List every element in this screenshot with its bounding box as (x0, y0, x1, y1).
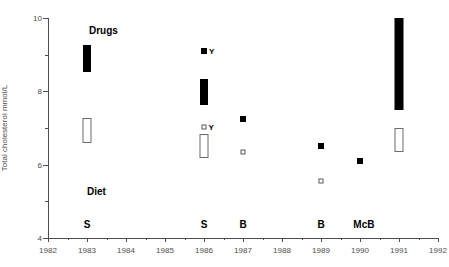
x-tick-label: 1988 (273, 246, 291, 255)
study-label: B (317, 219, 324, 230)
x-tick-major (321, 238, 322, 242)
x-tick-major (282, 238, 283, 242)
x-tick-label: 1991 (390, 246, 408, 255)
point-marker (201, 48, 207, 54)
x-tick-minor (68, 238, 69, 240)
x-tick-minor (263, 238, 264, 240)
range-bar (395, 18, 404, 110)
x-tick-minor (107, 238, 108, 240)
point-marker (318, 143, 324, 149)
x-tick-major (360, 238, 361, 242)
y-tick-label: 6 (38, 160, 42, 169)
x-tick-minor (185, 238, 186, 240)
marker-label: Y (209, 123, 214, 132)
y-tick-minor (45, 55, 48, 56)
y-tick-label: 4 (38, 234, 42, 243)
cholesterol-trend-chart: Total cholesterol mmol/L 46810 198219831… (0, 0, 449, 267)
x-tick-minor (380, 238, 381, 240)
x-tick-major (438, 238, 439, 242)
marker-label: Y (209, 47, 214, 56)
point-marker (202, 125, 207, 130)
x-tick-label: 1989 (312, 246, 330, 255)
x-tick-minor (302, 238, 303, 240)
x-tick-label: 1984 (117, 246, 135, 255)
x-tick-minor (224, 238, 225, 240)
point-marker (319, 179, 324, 184)
group-annotation: Drugs (89, 25, 118, 36)
x-tick-label: 1983 (78, 246, 96, 255)
x-tick-label: 1986 (195, 246, 213, 255)
y-axis-title: Total cholesterol mmol/L (0, 85, 9, 171)
x-tick-major (165, 238, 166, 242)
range-bar (200, 134, 209, 159)
x-tick-label: 1992 (429, 246, 447, 255)
x-tick-minor (146, 238, 147, 240)
x-tick-major (243, 238, 244, 242)
group-annotation: Diet (87, 186, 106, 197)
range-bar (83, 118, 92, 143)
x-tick-label: 1987 (234, 246, 252, 255)
x-tick-label: 1982 (39, 246, 57, 255)
point-marker (357, 158, 363, 164)
plot-area: 46810 1982198319841985198619871988198919… (48, 18, 438, 238)
y-tick-label: 8 (38, 87, 42, 96)
x-tick-label: 1985 (156, 246, 174, 255)
study-label: McB (353, 219, 374, 230)
point-marker (241, 149, 246, 154)
y-tick-minor (45, 128, 48, 129)
range-bar (395, 128, 404, 152)
y-tick-major (43, 165, 48, 166)
x-tick-major (87, 238, 88, 242)
x-tick-minor (341, 238, 342, 240)
y-tick-major (43, 91, 48, 92)
y-tick-label: 10 (33, 14, 42, 23)
y-tick-minor (45, 201, 48, 202)
x-tick-major (48, 238, 49, 242)
y-axis-line (48, 18, 49, 238)
range-bar (83, 45, 91, 72)
point-marker (240, 116, 246, 122)
study-label: S (201, 219, 208, 230)
study-label: B (239, 219, 246, 230)
x-tick-label: 1990 (351, 246, 369, 255)
y-tick-major (43, 18, 48, 19)
study-label: S (84, 219, 91, 230)
x-tick-major (399, 238, 400, 242)
x-tick-minor (419, 238, 420, 240)
range-bar (200, 79, 208, 105)
x-tick-major (126, 238, 127, 242)
x-tick-major (204, 238, 205, 242)
